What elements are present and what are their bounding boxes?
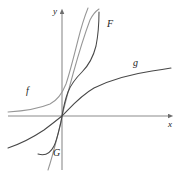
curve-g [8, 68, 171, 148]
curve-f [8, 8, 88, 112]
curve-label-f: f [26, 86, 29, 96]
curve-G [38, 12, 99, 155]
curve-label-G-lower: G [53, 148, 60, 158]
x-axis-label: x [168, 120, 172, 129]
math-figure: y x f F g G [0, 0, 180, 175]
curve-label-g: g [133, 58, 138, 68]
y-axis-label: y [53, 7, 57, 16]
curve-label-F-upper: F [107, 19, 113, 29]
